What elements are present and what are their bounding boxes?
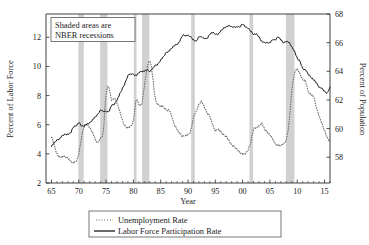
y-tick-label-right: 66 bbox=[335, 39, 343, 48]
recession-band bbox=[286, 14, 295, 183]
x-axis-title: Year bbox=[180, 197, 196, 206]
y-tick-label-left: 8 bbox=[37, 92, 41, 101]
y-tick-label-right: 62 bbox=[335, 96, 343, 105]
x-tick-label: 95 bbox=[211, 187, 219, 196]
employment-chart: 6570758085909500051015246810125860626466… bbox=[0, 0, 369, 245]
y-tick-label-right: 64 bbox=[335, 67, 343, 76]
y-tick-label-left: 6 bbox=[37, 121, 41, 130]
legend-label-participation: Labor Force Participation Rate bbox=[118, 227, 222, 236]
x-tick-label: 90 bbox=[184, 187, 192, 196]
x-tick-label: 75 bbox=[102, 187, 110, 196]
x-tick-label: 10 bbox=[293, 187, 301, 196]
y-tick-label-left: 2 bbox=[37, 179, 41, 188]
x-tick-label: 05 bbox=[266, 187, 274, 196]
legend-label-unemployment: Unemployment Rate bbox=[118, 216, 188, 225]
x-tick-label: 85 bbox=[157, 187, 165, 196]
recession-band bbox=[249, 14, 253, 183]
x-tick-label: 00 bbox=[239, 187, 247, 196]
y-tick-label-left: 10 bbox=[33, 62, 41, 71]
y-axis-title-left: Percent of Labor Force bbox=[6, 60, 15, 138]
y-tick-label-right: 58 bbox=[335, 153, 343, 162]
x-tick-label: 80 bbox=[129, 187, 137, 196]
chart-legend[interactable]: Unemployment Rate Labor Force Participat… bbox=[89, 211, 281, 237]
y-tick-label-left: 4 bbox=[37, 150, 41, 159]
x-tick-label: 15 bbox=[320, 187, 328, 196]
annotation-line-1: Shaded areas are bbox=[55, 21, 112, 30]
x-tick-label: 70 bbox=[75, 187, 83, 196]
x-tick-label: 65 bbox=[47, 187, 55, 196]
y-tick-label-right: 60 bbox=[335, 125, 343, 134]
chart-figure: 6570758085909500051015246810125860626466… bbox=[0, 0, 369, 245]
nber-annotation-box: Shaded areas are NBER recessions bbox=[51, 18, 135, 42]
y-tick-label-left: 12 bbox=[33, 33, 41, 42]
annotation-line-2: NBER recessions bbox=[55, 31, 114, 40]
y-axis-title-right: Percent of Population bbox=[358, 63, 367, 136]
y-tick-label-right: 68 bbox=[335, 10, 343, 19]
